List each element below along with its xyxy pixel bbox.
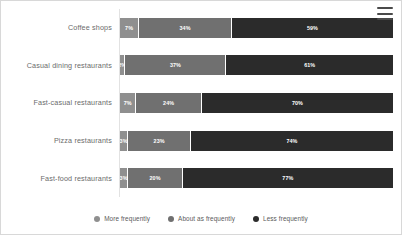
menu-line-1 (377, 7, 393, 9)
category-label: Coffee shops (1, 23, 119, 32)
bar-row: Fast-food restaurants3%20%77% (1, 159, 393, 197)
bar-segment[interactable]: 3% (120, 131, 128, 151)
legend-dot-icon (94, 216, 100, 222)
menu-line-3 (377, 18, 393, 20)
legend-label: Less frequently (263, 215, 308, 222)
bar-segment[interactable]: 34% (139, 18, 232, 38)
bar-segment-value: 23% (154, 138, 165, 144)
bar-row: Fast-casual restaurants7%24%70% (1, 84, 393, 122)
bar-track: 7%24%70% (119, 93, 393, 113)
bar-segment-value: 59% (307, 25, 318, 31)
bar-row: Pizza restaurants3%23%74% (1, 122, 393, 160)
bar-segment-value: 61% (304, 62, 315, 68)
bar-segment-value: 70% (292, 100, 303, 106)
bar-segment[interactable]: 23% (128, 131, 191, 151)
legend-item[interactable]: More frequently (94, 215, 150, 222)
bar-segment[interactable]: 59% (232, 18, 393, 38)
legend-item[interactable]: Less frequently (253, 215, 308, 222)
legend-label: More frequently (104, 215, 150, 222)
bar-track: 3%23%74% (119, 131, 393, 151)
bar-segment[interactable]: 24% (136, 93, 202, 113)
bar-segment[interactable]: 74% (191, 131, 393, 151)
category-label: Fast-food restaurants (1, 174, 119, 183)
bar-segment-value: 34% (179, 25, 190, 31)
legend-dot-icon (168, 216, 174, 222)
bar-segment[interactable]: 61% (226, 55, 393, 75)
bar-track: 3%20%77% (119, 168, 393, 188)
bar-row: Casual dining restaurants2%37%61% (1, 47, 393, 85)
bar-segment-value: 7% (125, 25, 133, 31)
bar-segment-value: 37% (170, 62, 181, 68)
bar-row: Coffee shops7%34%59% (1, 9, 393, 47)
legend-dot-icon (253, 216, 259, 222)
legend-item[interactable]: About as frequently (168, 215, 235, 222)
bar-segment-value: 3% (120, 138, 128, 144)
chart-legend: More frequentlyAbout as frequentlyLess f… (1, 215, 401, 222)
category-label: Pizza restaurants (1, 136, 119, 145)
bar-segment-value: 74% (286, 138, 297, 144)
category-label: Casual dining restaurants (1, 61, 119, 70)
bar-segment-value: 7% (124, 100, 132, 106)
bar-segment-value: 3% (120, 175, 128, 181)
bar-track: 2%37%61% (119, 55, 393, 75)
bar-rows-container: Coffee shops7%34%59%Casual dining restau… (1, 9, 393, 197)
bar-segment[interactable]: 37% (125, 55, 226, 75)
bar-segment-value: 77% (282, 175, 293, 181)
bar-segment-value: 24% (163, 100, 174, 106)
bar-segment[interactable]: 70% (202, 93, 393, 113)
stacked-bar-chart-card: Coffee shops7%34%59%Casual dining restau… (0, 0, 402, 235)
bar-segment-value: 20% (149, 175, 160, 181)
bar-segment[interactable]: 77% (183, 168, 393, 188)
bar-segment[interactable]: 3% (120, 168, 128, 188)
bar-segment[interactable]: 7% (120, 93, 136, 113)
category-label: Fast-casual restaurants (1, 98, 119, 107)
bar-segment[interactable]: 20% (128, 168, 183, 188)
plot-area: Coffee shops7%34%59%Casual dining restau… (1, 9, 393, 197)
bar-track: 7%34%59% (119, 18, 393, 38)
legend-label: About as frequently (178, 215, 235, 222)
hamburger-menu-icon[interactable] (377, 7, 393, 20)
bar-segment[interactable]: 7% (120, 18, 139, 38)
menu-line-2 (377, 13, 393, 15)
